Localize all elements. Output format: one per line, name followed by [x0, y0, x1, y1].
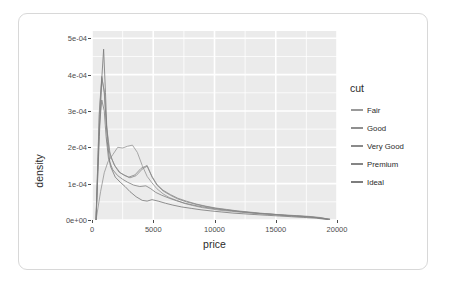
x-tick-label: 0	[90, 225, 94, 234]
y-tick-mark	[88, 184, 91, 185]
x-axis-tick-labels: 05000100001500020000	[92, 222, 337, 236]
y-axis-title: density	[33, 116, 45, 226]
x-tick-label: 5000	[145, 225, 162, 234]
y-tick-label: 4e-04	[68, 70, 87, 79]
legend-key-swatch	[350, 176, 363, 189]
y-tick-mark	[88, 220, 91, 221]
y-tick-mark	[88, 147, 91, 148]
legend-item-label: Ideal	[367, 178, 384, 187]
x-tick-mark	[153, 220, 154, 223]
x-axis-title: price	[92, 238, 337, 250]
legend: cut FairGoodVery GoodPremiumIdeal	[350, 82, 422, 191]
x-tick-mark	[215, 220, 216, 223]
x-tick-mark	[337, 220, 338, 223]
legend-key-swatch	[350, 122, 363, 135]
legend-item-very-good[interactable]: Very Good	[350, 137, 422, 155]
legend-item-label: Fair	[367, 106, 380, 115]
x-tick-mark	[276, 220, 277, 223]
y-tick-label: 1e-04	[68, 179, 87, 188]
series-line-very-good	[96, 76, 330, 220]
y-axis-tick-labels: 0e+001e-042e-043e-044e-045e-04	[44, 31, 87, 220]
legend-item-label: Premium	[367, 160, 398, 169]
legend-item-ideal[interactable]: Ideal	[350, 173, 422, 191]
y-tick-label: 2e-04	[68, 143, 87, 152]
legend-item-premium[interactable]: Premium	[350, 155, 422, 173]
y-tick-label: 3e-04	[68, 106, 87, 115]
y-axis-title-wrap: density	[20, 71, 40, 181]
y-tick-label: 5e-04	[68, 34, 87, 43]
x-tick-label: 15000	[265, 225, 286, 234]
legend-item-good[interactable]: Good	[350, 119, 422, 137]
x-tick-mark	[92, 220, 93, 223]
legend-key-swatch	[350, 140, 363, 153]
legend-item-label: Very Good	[367, 142, 404, 151]
series-line-good	[96, 78, 330, 220]
plot-panel	[92, 31, 337, 220]
legend-title: cut	[350, 82, 422, 94]
y-tick-mark	[88, 111, 91, 112]
y-tick-mark	[88, 38, 91, 39]
x-tick-label: 20000	[327, 225, 348, 234]
plot-area	[92, 31, 337, 220]
legend-item-label: Good	[367, 124, 386, 133]
series-line-fair	[96, 145, 327, 220]
legend-key-swatch	[350, 104, 363, 117]
legend-key-swatch	[350, 158, 363, 171]
y-tick-mark	[88, 75, 91, 76]
legend-items: FairGoodVery GoodPremiumIdeal	[350, 101, 422, 191]
legend-item-fair[interactable]: Fair	[350, 101, 422, 119]
y-tick-label: 0e+00	[66, 216, 87, 225]
x-tick-label: 10000	[204, 225, 225, 234]
chart-screenshot: 0e+001e-042e-043e-044e-045e-04 050001000…	[0, 0, 449, 286]
